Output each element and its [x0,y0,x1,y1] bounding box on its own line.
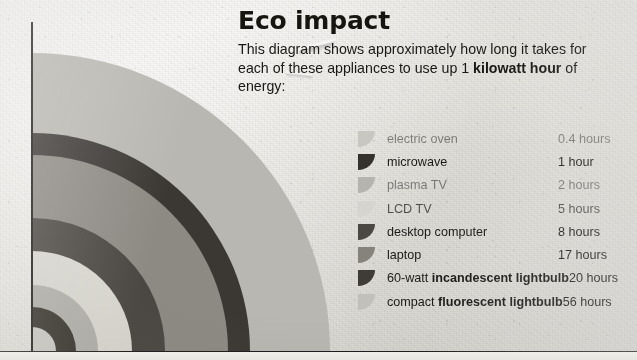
legend-value: 2 hours [558,178,630,192]
legend-swatch-icon [358,270,375,286]
legend-swatch-icon [358,294,375,310]
legend-label: compact fluorescent lightbulb [387,295,563,309]
chart-y-axis [31,22,33,352]
legend-list: electric oven 0.4 hours microwave 1 hour… [358,127,630,313]
legend-label-text: microwave [387,155,447,169]
legend-label-text: desktop computer [387,225,487,239]
legend-row-fluorescent-lightbulb[interactable]: compact fluorescent lightbulb 56 hours [358,290,630,313]
legend-swatch-icon [358,224,375,240]
legend-row-laptop[interactable]: laptop 17 hours [358,243,630,266]
legend-value: 20 hours [569,271,637,285]
legend-label: LCD TV [387,202,558,216]
description-line-1: This diagram shows approximately how lon… [238,41,566,57]
heading-block: Eco impact This diagram shows approximat… [238,8,630,96]
description-emphasis: kilowatt hour [473,60,561,76]
legend-value: 1 hour [558,155,630,169]
legend-label: electric oven [387,132,558,146]
page-bottom-margin [0,352,637,360]
legend-label: laptop [387,248,558,262]
legend-value: 17 hours [558,248,630,262]
legend-value: 5 hours [558,202,630,216]
legend-value: 8 hours [558,225,630,239]
legend-value: 0.4 hours [558,132,630,146]
page-description: This diagram shows approximately how lon… [238,40,588,96]
legend-swatch-icon [358,154,375,170]
arc-band-group [0,53,330,360]
legend-label-text: laptop [387,248,421,262]
legend-label: plasma TV [387,178,558,192]
legend-label-text: compact [387,295,438,309]
legend-row-lcd-tv[interactable]: LCD TV 5 hours [358,197,630,220]
legend-row-microwave[interactable]: microwave 1 hour [358,150,630,173]
legend-row-incandescent-lightbulb[interactable]: 60-watt incandescent lightbulb 20 hours [358,267,630,290]
legend-swatch-icon [358,201,375,217]
legend-label-text: plasma TV [387,178,447,192]
legend-label-text: 60-watt [387,271,432,285]
legend-value: 56 hours [563,295,635,309]
legend-label-text: LCD TV [387,202,432,216]
legend-label-bold: incandescent lightbulb [432,271,569,285]
legend-row-electric-oven[interactable]: electric oven 0.4 hours [358,127,630,150]
legend-label: microwave [387,155,558,169]
legend-label: 60-watt incandescent lightbulb [387,271,569,285]
legend-label: desktop computer [387,225,558,239]
legend-row-desktop-computer[interactable]: desktop computer 8 hours [358,220,630,243]
legend-label-text: electric oven [387,132,458,146]
legend-swatch-icon [358,131,375,147]
page-title: Eco impact [238,8,630,34]
legend-swatch-icon [358,177,375,193]
legend-row-plasma-tv[interactable]: plasma TV 2 hours [358,174,630,197]
legend-swatch-icon [358,247,375,263]
legend-label-bold: fluorescent lightbulb [438,295,563,309]
